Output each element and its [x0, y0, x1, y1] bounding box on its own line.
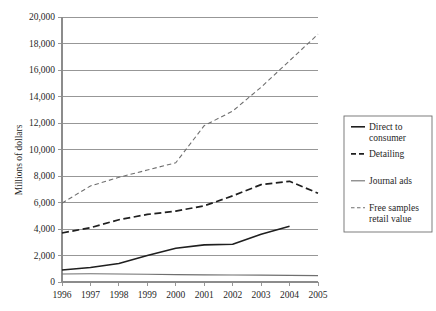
- legend-label: Direct to: [369, 122, 403, 132]
- y-tick-label: 12,000: [29, 118, 55, 128]
- y-tick-label: 4,000: [34, 224, 56, 234]
- series-line: [62, 34, 318, 203]
- x-tick-label: 2004: [280, 290, 299, 300]
- chart-legend: Direct toconsumerDetailingJournal adsFre…: [344, 116, 432, 232]
- y-tick-label: 16,000: [29, 65, 55, 75]
- x-tick-label: 1996: [53, 290, 72, 300]
- legend-label: Journal ads: [369, 176, 412, 186]
- y-tick-label: 20,000: [29, 12, 55, 22]
- y-tick-label: 14,000: [29, 92, 55, 102]
- series-line: [62, 226, 290, 270]
- x-tick-label: 2003: [252, 290, 271, 300]
- x-tick-label: 2001: [195, 290, 214, 300]
- y-tick-labels: 02,0004,0006,0008,00010,00012,00014,0001…: [29, 12, 55, 287]
- y-tick-label: 8,000: [34, 171, 56, 181]
- x-tick-label: 2002: [223, 290, 242, 300]
- x-tick-label: 2005: [309, 290, 328, 300]
- line-chart-figure: 02,0004,0006,0008,00010,00012,00014,0001…: [0, 0, 436, 311]
- y-tick-label: 0: [50, 277, 55, 287]
- legend-label-line2: consumer: [369, 133, 407, 143]
- x-tick-label: 1997: [81, 290, 100, 300]
- y-tick-label: 6,000: [34, 198, 56, 208]
- chart-canvas: 02,0004,0006,0008,00010,00012,00014,0001…: [0, 0, 436, 311]
- y-tick-label: 18,000: [29, 39, 55, 49]
- y-tick-label: 2,000: [34, 251, 56, 261]
- x-tick-label: 1998: [109, 290, 128, 300]
- y-axis-title: Millions of dollars: [14, 124, 24, 195]
- x-tick-labels: 1996199719981999200020012002200320042005: [53, 290, 328, 300]
- series-line: [62, 181, 318, 233]
- gridlines: [62, 17, 318, 282]
- x-tick-label: 2000: [166, 290, 185, 300]
- y-tick-label: 10,000: [29, 145, 55, 155]
- legend-label: Free samples: [369, 203, 419, 213]
- x-axis: [58, 17, 318, 286]
- series-line: [62, 274, 318, 276]
- x-tick-label: 1999: [138, 290, 157, 300]
- legend-label-line2: retail value: [369, 214, 411, 224]
- legend-label: Detailing: [369, 149, 405, 159]
